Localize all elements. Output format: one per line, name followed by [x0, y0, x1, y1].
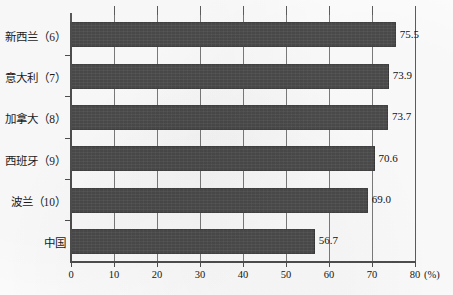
y-tick-5	[65, 220, 71, 221]
x-tick-label: 70	[367, 269, 378, 280]
top-tick-70	[372, 6, 373, 15]
gridline-30	[200, 14, 201, 262]
category-label: 新西兰（6）	[0, 28, 66, 44]
top-tick-30	[200, 6, 201, 15]
x-tick-label: 10	[109, 269, 120, 280]
top-tick-60	[329, 6, 330, 15]
top-tick-80	[415, 6, 416, 15]
bar	[71, 105, 388, 130]
category-label: 加拿大（8）	[0, 110, 66, 126]
chart-page: 75.573.973.770.669.056.7 新西兰（6）意大利（7）加拿大…	[0, 0, 453, 295]
y-tick-4	[65, 179, 71, 180]
x-tick-label: 0	[68, 269, 73, 280]
bar-value-label: 73.9	[393, 69, 412, 81]
bar-value-label: 73.7	[392, 110, 411, 122]
x-tick-70	[372, 261, 373, 267]
top-tick-20	[157, 6, 158, 15]
x-axis-unit-label: (%)	[424, 269, 440, 280]
x-tick-label: 20	[152, 269, 163, 280]
category-label: 波兰（10）	[0, 193, 66, 209]
category-label: 中国	[0, 234, 66, 250]
bar-value-label: 75.5	[400, 28, 419, 40]
gridline-50	[286, 14, 287, 262]
horizontal-bar-chart: 75.573.973.770.669.056.7 新西兰（6）意大利（7）加拿大…	[0, 0, 453, 295]
x-tick-40	[243, 261, 244, 267]
bar	[71, 146, 375, 171]
x-tick-label: 30	[195, 269, 206, 280]
gridline-80	[415, 14, 416, 262]
x-tick-label: 80	[410, 269, 421, 280]
gridline-20	[157, 14, 158, 262]
category-label: 意大利（7）	[0, 69, 66, 85]
bar	[71, 188, 368, 213]
x-tick-20	[157, 261, 158, 267]
bar	[71, 64, 389, 89]
top-tick-40	[243, 6, 244, 15]
bar-value-label: 70.6	[379, 152, 398, 164]
gridline-10	[114, 14, 115, 262]
x-tick-60	[329, 261, 330, 267]
y-tick-3	[65, 138, 71, 139]
category-label: 西班牙（9）	[0, 152, 66, 168]
top-tick-10	[114, 6, 115, 15]
bar	[71, 229, 315, 254]
y-tick-2	[65, 96, 71, 97]
bar-value-label: 56.7	[319, 234, 338, 246]
bar	[71, 22, 396, 47]
y-axis-top-cap	[70, 13, 72, 22]
top-tick-50	[286, 6, 287, 15]
y-tick-1	[65, 55, 71, 56]
bar-value-label: 69.0	[372, 193, 391, 205]
gridline-60	[329, 14, 330, 262]
gridline-70	[372, 14, 373, 262]
x-tick-10	[114, 261, 115, 267]
x-tick-0	[71, 261, 72, 267]
x-tick-label: 40	[238, 269, 249, 280]
gridline-40	[243, 14, 244, 262]
x-tick-label: 60	[324, 269, 335, 280]
x-tick-80	[415, 261, 416, 267]
x-tick-label: 50	[281, 269, 292, 280]
x-tick-30	[200, 261, 201, 267]
x-tick-50	[286, 261, 287, 267]
